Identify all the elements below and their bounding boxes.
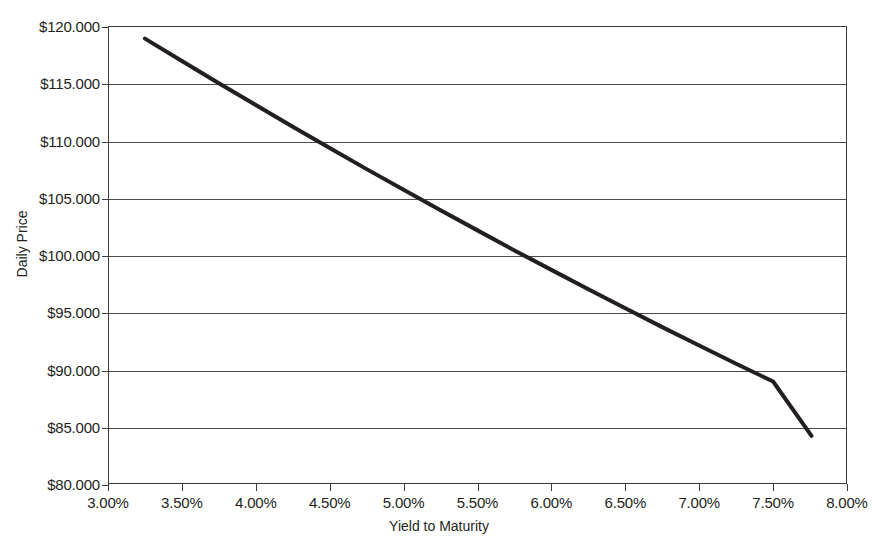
x-axis-labels: 3.00%3.50%4.00%4.50%5.00%5.50%6.00%6.50%… — [108, 494, 847, 516]
x-tick-label: 4.00% — [235, 494, 277, 511]
y-tick-label: $85.000 — [47, 418, 100, 435]
x-tick-label: 3.00% — [87, 494, 129, 511]
x-tick-label: 8.00% — [826, 494, 868, 511]
price-yield-line — [145, 39, 812, 436]
x-tick-mark — [478, 484, 479, 491]
y-tick-label: $115.000 — [40, 75, 100, 92]
y-tick-label: $90.000 — [47, 361, 100, 378]
y-axis-title: Daily Price — [14, 184, 30, 304]
x-tick-label: 4.50% — [309, 494, 351, 511]
x-tick-label: 6.00% — [531, 494, 573, 511]
x-tick-mark — [404, 484, 405, 491]
x-axis-ticks — [108, 484, 847, 494]
price-yield-chart: $120.000$115.000$110.000$105.000$100.000… — [0, 0, 878, 557]
x-tick-mark — [330, 484, 331, 491]
x-tick-mark — [256, 484, 257, 491]
x-tick-mark — [773, 484, 774, 491]
x-tick-label: 6.50% — [605, 494, 647, 511]
x-tick-label: 5.50% — [457, 494, 499, 511]
y-tick-label: $80.000 — [47, 476, 100, 493]
x-tick-mark — [551, 484, 552, 491]
x-tick-mark — [182, 484, 183, 491]
x-axis-title: Yield to Maturity — [0, 518, 878, 534]
x-tick-mark — [625, 484, 626, 491]
x-tick-label: 3.50% — [161, 494, 203, 511]
y-tick-label: $100.000 — [39, 247, 100, 264]
y-tick-label: $110.000 — [40, 132, 100, 149]
y-tick-label: $120.000 — [39, 18, 100, 35]
x-tick-label: 7.00% — [678, 494, 720, 511]
series-layer — [108, 26, 847, 484]
x-tick-label: 7.50% — [752, 494, 794, 511]
y-tick-label: $95.000 — [47, 304, 100, 321]
x-tick-label: 5.00% — [383, 494, 425, 511]
x-tick-mark — [847, 484, 848, 491]
x-tick-mark — [108, 484, 109, 491]
y-tick-label: $105.000 — [39, 189, 100, 206]
x-tick-mark — [699, 484, 700, 491]
